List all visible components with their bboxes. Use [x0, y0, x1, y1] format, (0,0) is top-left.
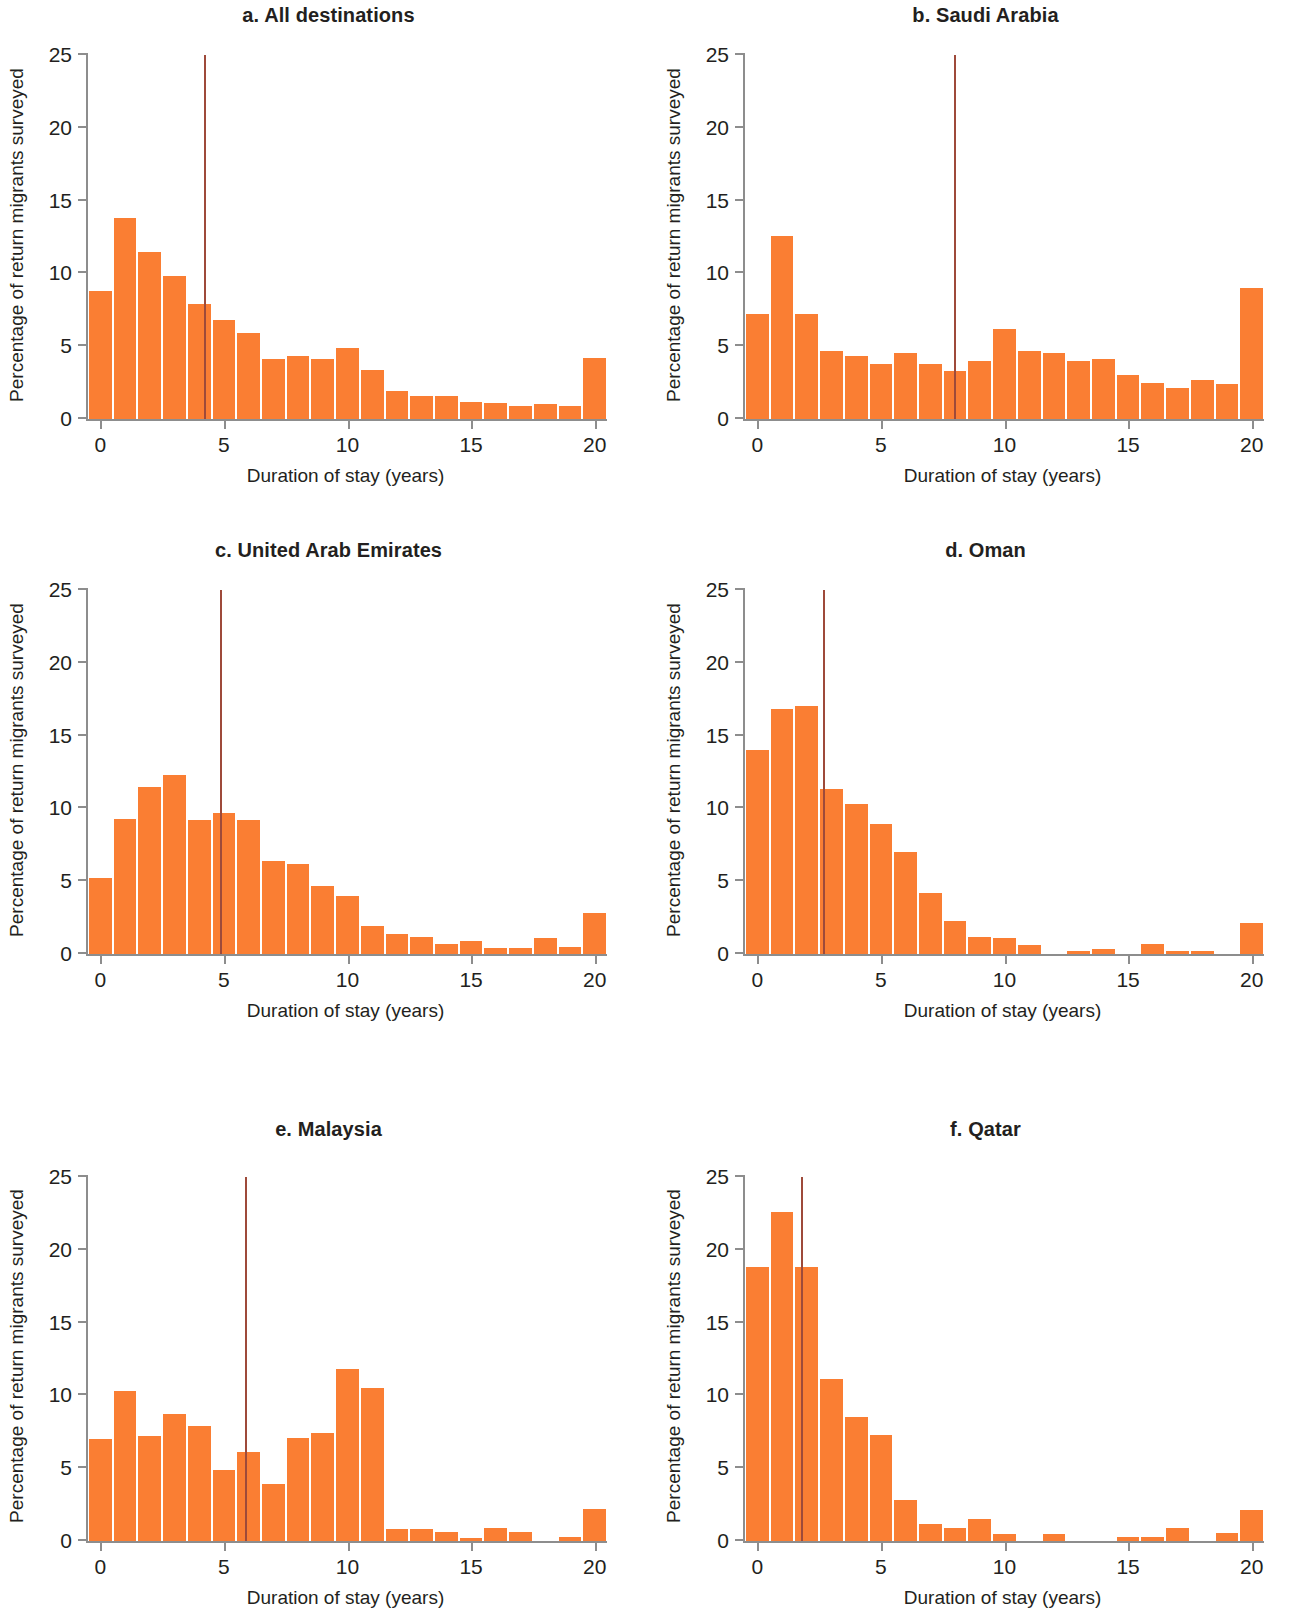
x-axis-tick	[348, 419, 350, 429]
histogram-bar	[1239, 1510, 1264, 1541]
bar-series	[745, 55, 1264, 419]
x-axis-label: Duration of stay (years)	[743, 465, 1262, 487]
y-axis-tick-label: 0	[717, 407, 729, 431]
histogram-bar	[745, 750, 770, 954]
y-axis-tick-label: 20	[706, 651, 729, 675]
histogram-bar	[434, 944, 459, 954]
y-axis-tick	[735, 1393, 745, 1395]
x-axis-tick-label: 15	[1116, 1555, 1139, 1579]
histogram-bar	[261, 359, 286, 419]
y-axis-tick	[735, 344, 745, 346]
x-axis-tick	[1128, 954, 1130, 964]
histogram-bar	[1091, 949, 1116, 954]
histogram-bar	[385, 934, 410, 954]
x-axis-tick	[1252, 419, 1254, 429]
x-axis-tick	[881, 954, 883, 964]
histogram-bar	[310, 359, 335, 419]
x-axis-tick-label: 20	[583, 968, 606, 992]
histogram-bar	[582, 1509, 607, 1541]
y-axis-tick	[78, 1248, 88, 1250]
y-axis-tick-label: 20	[49, 1238, 72, 1262]
x-axis-tick	[1252, 954, 1254, 964]
histogram-bar	[310, 1433, 335, 1541]
y-axis-tick	[735, 661, 745, 663]
histogram-bar	[992, 1534, 1017, 1541]
histogram-bar	[893, 1500, 918, 1541]
histogram-bar	[1165, 951, 1190, 954]
y-axis-tick	[78, 661, 88, 663]
plot-wrapper: Percentage of return migrants surveyed05…	[657, 1070, 1314, 1618]
histogram-bar	[1066, 951, 1091, 954]
x-axis-tick	[757, 1541, 759, 1551]
x-axis-tick-label: 10	[336, 968, 359, 992]
histogram-bar	[1140, 944, 1165, 954]
median-line	[801, 1177, 803, 1541]
x-axis-tick-label: 5	[875, 433, 887, 457]
y-axis-tick	[78, 588, 88, 590]
y-axis-tick	[735, 588, 745, 590]
histogram-bar	[869, 824, 894, 954]
x-axis-tick	[1252, 1541, 1254, 1551]
y-axis-tick	[78, 53, 88, 55]
histogram-bar	[1042, 353, 1067, 419]
y-axis-tick-label: 15	[49, 1311, 72, 1335]
y-axis-tick	[735, 734, 745, 736]
y-axis-tick	[735, 1248, 745, 1250]
median-line	[245, 1177, 247, 1541]
histogram-bar	[310, 886, 335, 954]
histogram-bar	[1042, 1534, 1067, 1541]
panel-d: d. OmanPercentage of return migrants sur…	[657, 535, 1314, 1070]
y-axis-tick	[78, 344, 88, 346]
x-axis-tick	[595, 954, 597, 964]
y-axis-tick	[735, 417, 745, 419]
y-axis-tick-label: 0	[717, 942, 729, 966]
x-axis-tick-label: 10	[336, 433, 359, 457]
histogram-bar	[558, 1537, 583, 1541]
bar-series	[88, 55, 607, 419]
y-axis-tick	[78, 1539, 88, 1541]
y-axis-tick-label: 20	[706, 1238, 729, 1262]
x-axis-tick	[881, 1541, 883, 1551]
histogram-bar	[1091, 359, 1116, 419]
histogram-bar	[869, 364, 894, 419]
histogram-bar	[558, 406, 583, 419]
histogram-bar	[819, 351, 844, 419]
y-axis-tick	[78, 1466, 88, 1468]
y-axis-tick-label: 25	[706, 43, 729, 67]
y-axis-tick-label: 10	[706, 796, 729, 820]
y-axis-tick-label: 25	[49, 1165, 72, 1189]
x-axis-tick	[471, 1541, 473, 1551]
bar-series	[745, 1177, 1264, 1541]
histogram-bar	[869, 1435, 894, 1541]
histogram-bar	[533, 404, 558, 419]
histogram-bar	[409, 396, 434, 419]
x-axis-tick	[1005, 954, 1007, 964]
plot-area: 051015202505101520	[743, 55, 1264, 421]
y-axis-tick-label: 5	[717, 1456, 729, 1480]
histogram-bar	[745, 1267, 770, 1541]
y-axis-tick	[735, 879, 745, 881]
x-axis-tick-label: 15	[459, 968, 482, 992]
histogram-bar	[212, 813, 237, 954]
y-axis-tick	[78, 271, 88, 273]
y-axis-tick	[735, 126, 745, 128]
y-axis-tick	[735, 1175, 745, 1177]
x-axis-tick	[1128, 419, 1130, 429]
x-axis-tick	[224, 419, 226, 429]
y-axis-label: Percentage of return migrants surveyed	[663, 580, 685, 960]
plot-wrapper: Percentage of return migrants surveyed05…	[657, 0, 1314, 535]
histogram-bar	[187, 1426, 212, 1541]
histogram-bar	[844, 1417, 869, 1541]
y-axis-label: Percentage of return migrants surveyed	[6, 45, 28, 425]
histogram-bar	[483, 948, 508, 954]
histogram-bar	[893, 852, 918, 954]
panel-e: e. MalaysiaPercentage of return migrants…	[0, 1070, 657, 1618]
histogram-bar	[508, 406, 533, 419]
histogram-bar	[794, 1267, 819, 1541]
x-axis-tick-label: 0	[752, 1555, 764, 1579]
x-axis-tick-label: 15	[459, 1555, 482, 1579]
x-axis-label: Duration of stay (years)	[86, 465, 605, 487]
histogram-bar	[1140, 1537, 1165, 1541]
histogram-bar	[508, 948, 533, 954]
histogram-bar	[137, 252, 162, 419]
